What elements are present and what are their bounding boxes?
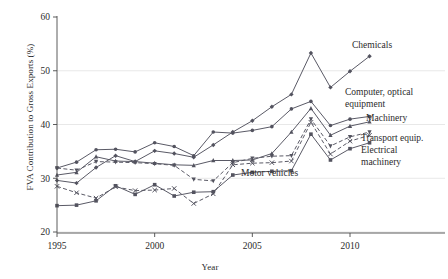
- series-machinery: [55, 106, 372, 177]
- annotation-equipment: equipment: [345, 99, 385, 109]
- y-tick-40: 40: [41, 120, 51, 130]
- x-tick-2005: 2005: [243, 241, 262, 251]
- x-tick-2000: 2000: [145, 241, 164, 251]
- data-series-group: [55, 51, 372, 208]
- tick-labels: 20304050601995200020052010: [41, 12, 360, 251]
- annotation-machinery: Machinery: [366, 113, 407, 123]
- chart-figure: FVA Contribution to Gross Exports (%) Ye…: [0, 0, 448, 279]
- annotation-machinery: machinery: [361, 157, 401, 167]
- line-chart-plot: 20304050601995200020052010 ChemicalsComp…: [0, 0, 448, 279]
- y-tick-20: 20: [41, 227, 51, 237]
- annotation-chemicals: Chemicals: [352, 40, 392, 50]
- x-tick-2010: 2010: [341, 241, 360, 251]
- y-tick-60: 60: [41, 12, 51, 22]
- y-tick-30: 30: [41, 174, 51, 184]
- x-tick-1995: 1995: [48, 241, 67, 251]
- y-tick-50: 50: [41, 66, 51, 76]
- annotation-computer-optical: Computer, optical: [345, 87, 414, 97]
- annotation-motor-vehicles: Motor vehicles: [241, 168, 299, 178]
- annotation-transport-equip: Transport equip.: [361, 133, 423, 143]
- annotation-electrical: Electrical: [361, 145, 398, 155]
